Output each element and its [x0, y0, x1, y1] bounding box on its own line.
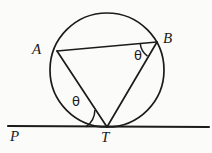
- chord-at: [57, 51, 107, 127]
- angle-label-theta-at-t: θ: [72, 95, 80, 108]
- vertex-label-t: T: [101, 130, 109, 145]
- geometry-figure: A B T P θ θ: [0, 0, 212, 153]
- circle-shape: [50, 13, 164, 127]
- vertex-label-p: P: [10, 129, 19, 144]
- vertex-label-a: A: [32, 42, 41, 57]
- angle-label-theta-at-b: θ: [134, 49, 142, 62]
- chord-bt: [107, 42, 157, 127]
- vertex-label-b: B: [163, 31, 172, 46]
- tangent-line-pt: [8, 126, 209, 127]
